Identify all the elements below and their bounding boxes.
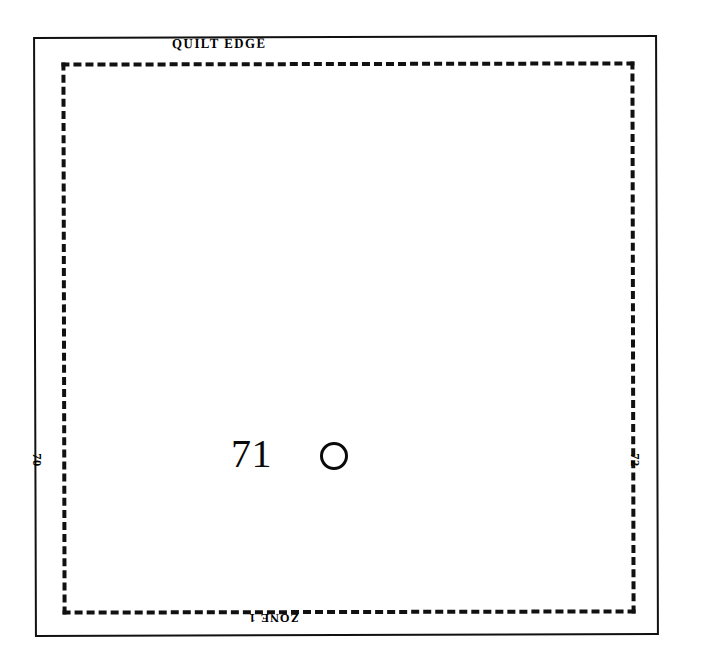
zone-border-top — [61, 61, 634, 66]
right-column-label-72: 72 — [627, 453, 643, 466]
zone-border-left — [61, 63, 66, 615]
circle-outline-marker-icon — [320, 442, 348, 470]
left-column-label-70: 70 — [29, 453, 45, 466]
quilt-diagram-page: QUILT EDGE ZONE 1 70 72 71 — [0, 0, 701, 672]
quilt-edge-label: QUILT EDGE — [172, 36, 267, 52]
zone-dashed-border — [61, 61, 635, 614]
zone-label: ZONE 1 — [248, 610, 299, 626]
center-block-number-71: 71 — [231, 434, 272, 474]
